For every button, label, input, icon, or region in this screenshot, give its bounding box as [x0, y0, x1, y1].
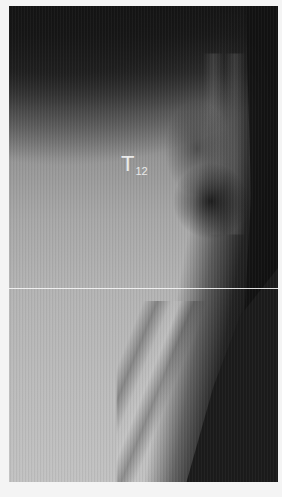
- vertebra-label-number: 12: [135, 165, 147, 177]
- radiograph-image: T12: [9, 6, 278, 482]
- vertebra-label: T12: [121, 153, 148, 175]
- vertebra-label-letter: T: [121, 151, 134, 176]
- horizontal-artifact-line: [9, 288, 278, 289]
- scan-line-texture: [9, 6, 278, 482]
